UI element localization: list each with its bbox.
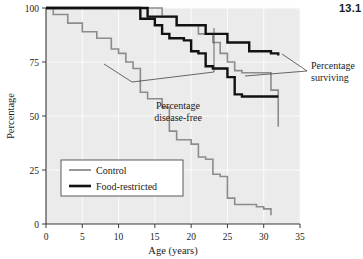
x-axis-title: Age (years): [148, 245, 198, 257]
x-axis-ticks: [46, 224, 300, 228]
y-axis-tick-labels: 0255075100: [25, 4, 40, 230]
x-tick-label-10: 10: [114, 232, 124, 242]
x-tick-label-5: 5: [80, 232, 85, 242]
x-axis-tick-labels: 05101520253035: [44, 232, 305, 242]
figure-root: 13.1 05101520253035 0255075100 Age (year…: [0, 0, 363, 259]
y-tick-label-50: 50: [30, 112, 40, 122]
annotation-surviving-line2: surviving: [311, 72, 349, 83]
y-tick-label-100: 100: [25, 4, 40, 14]
legend-label-control: Control: [96, 165, 127, 176]
x-tick-label-25: 25: [223, 232, 233, 242]
x-tick-label-0: 0: [44, 232, 49, 242]
x-tick-label-30: 30: [259, 232, 269, 242]
annotation-disease-free-line1: Percentage: [156, 100, 200, 111]
x-tick-label-35: 35: [295, 232, 305, 242]
annotation-disease-free-line2: disease-free: [154, 112, 202, 123]
y-tick-label-0: 0: [34, 220, 39, 230]
legend-label-food-restricted: Food-restricted: [96, 181, 157, 192]
y-axis-ticks: [42, 8, 46, 224]
x-tick-label-20: 20: [186, 232, 196, 242]
legend[interactable]: Control Food-restricted: [61, 160, 183, 196]
x-tick-label-15: 15: [150, 232, 160, 242]
survival-chart: 05101520253035 0255075100 Age (years) Pe…: [0, 0, 363, 259]
y-tick-label-75: 75: [30, 58, 40, 68]
y-tick-label-25: 25: [30, 166, 40, 176]
y-axis-title: Percentage: [5, 93, 16, 139]
annotation-surviving-line1: Percentage: [311, 60, 355, 71]
